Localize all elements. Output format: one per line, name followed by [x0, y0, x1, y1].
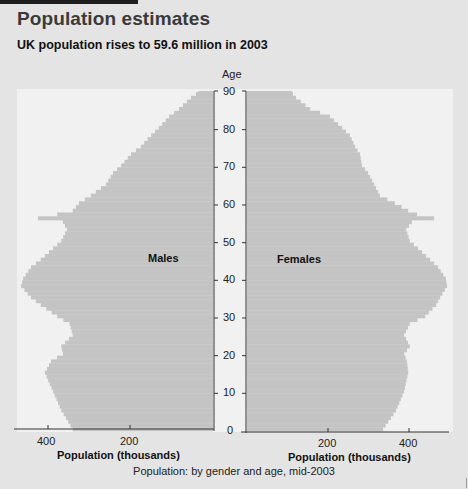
female-x-axis-title: Population (thousands): [288, 451, 411, 463]
female-tick-400: 400: [399, 437, 417, 449]
male-tick-200: 200: [120, 435, 138, 447]
females-label: Females: [277, 253, 321, 265]
age-tick-0: 0: [227, 424, 233, 436]
age-tick-80: 80: [223, 123, 235, 135]
edge-mark: [466, 478, 467, 488]
age-tick-60: 60: [223, 198, 235, 210]
age-tick-70: 70: [223, 160, 235, 172]
males-label: Males: [148, 252, 179, 264]
male-tick-400: 400: [37, 435, 55, 447]
age-tick-40: 40: [223, 273, 235, 285]
age-tick-50: 50: [223, 236, 235, 248]
age-tick-90: 90: [223, 85, 235, 97]
age-tick-10: 10: [223, 386, 235, 398]
female-tick-200: 200: [318, 437, 336, 449]
age-tick-20: 20: [223, 349, 235, 361]
age-tick-30: 30: [223, 311, 235, 323]
male-bars: [21, 91, 213, 431]
male-x-axis-title: Population (thousands): [57, 449, 180, 461]
chart-caption: Population: by gender and age, mid-2003: [0, 465, 468, 477]
